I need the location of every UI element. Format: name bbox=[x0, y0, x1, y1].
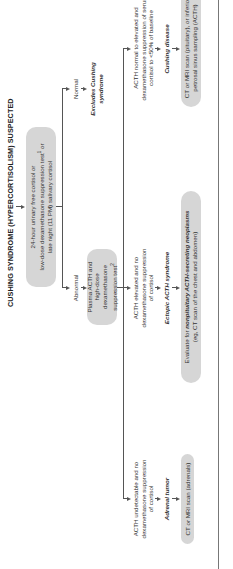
arrow-down-icon bbox=[83, 87, 87, 91]
screening-line2: low-dose dexamethasone suppression test1… bbox=[36, 143, 46, 270]
finding-acth-elevated: ACTH elevated and no dexamethasone suppr… bbox=[132, 233, 155, 343]
finding-line: dexamethasone suppression of serum bbox=[140, 0, 148, 107]
action-adrenal-scan-box: CT or MRI scan (adrenals) bbox=[181, 454, 194, 544]
flowchart-canvas: CUSHING SYNDROME (HYPERCORTISOLISM) SUSP… bbox=[0, 0, 233, 569]
screening-line2-text: low-dose dexamethasone suppression test bbox=[38, 153, 45, 270]
plasma-line1: Plasma ACTH and bbox=[86, 262, 94, 313]
finding-line: cortisol to <50% of baseline bbox=[147, 0, 155, 107]
finding-line: dexamethasone suppression bbox=[140, 233, 148, 343]
finding-line: dexamethasone suppression bbox=[140, 449, 148, 549]
plasma-line3-text: suppression test bbox=[111, 266, 118, 311]
excludes-cushing-result: Excludes Cushing syndrome bbox=[89, 49, 104, 129]
finding-acth-undetectable: ACTH undetectable and no dexamethasone s… bbox=[132, 449, 155, 549]
screening-line2-tail: or bbox=[38, 143, 45, 150]
arrow-down-icon bbox=[176, 286, 180, 290]
arrow-down-icon bbox=[176, 47, 180, 51]
finding-line: of cortisol bbox=[147, 233, 155, 343]
diagnosis-cushing-disease: Cushing disease bbox=[163, 4, 171, 94]
footnote-1: 1 bbox=[37, 151, 42, 154]
plasma-line2: high-dose dexamethasone bbox=[93, 253, 108, 321]
footnote-2: 2 bbox=[110, 263, 115, 266]
arrow-down-icon bbox=[21, 205, 25, 209]
screening-line1: 24-hour urinary free cortisol or bbox=[29, 166, 37, 249]
action-line: (eg, CT scan of the chest and abdomen) bbox=[191, 232, 199, 343]
arrow-down-icon bbox=[66, 286, 70, 290]
diagnosis-post: syndrome bbox=[163, 252, 170, 283]
diagnosis-ectopic-acth: Ectopic ACTH syndrome bbox=[163, 233, 171, 343]
action-line: petrosal sinus sampling (ACTH) bbox=[191, 4, 199, 91]
arrow-down-icon bbox=[157, 47, 161, 51]
bottom-divider bbox=[218, 0, 219, 569]
excludes-line1: Excludes Cushing bbox=[89, 49, 97, 129]
abnormal-label: Abnormal bbox=[72, 263, 80, 313]
connector bbox=[62, 88, 63, 288]
action-em: nonpituitary ACTH-secreting neoplasms bbox=[183, 211, 190, 329]
finding-line: ACTH undetectable and no bbox=[132, 449, 140, 549]
finding-line: ACTH normal to elevated and bbox=[132, 0, 140, 107]
arrow-down-icon bbox=[176, 497, 180, 501]
diagnosis-adrenal-tumor: Adrenal tumor bbox=[163, 459, 171, 539]
finding-acth-normal: ACTH normal to elevated and dexamethason… bbox=[132, 0, 155, 107]
action-line: Evaluate for nonpituitary ACTH-secreting… bbox=[183, 211, 191, 364]
finding-line: of cortisol bbox=[147, 449, 155, 549]
diagnosis-em: ACTH bbox=[163, 283, 170, 300]
action-line: CT or MRI scan (pituitary), or inferior bbox=[183, 0, 191, 98]
normal-label: Normal bbox=[72, 64, 80, 114]
plasma-acth-test-box: Plasma ACTH and high-dose dexamethasone … bbox=[87, 249, 117, 325]
arrow-down-icon bbox=[127, 497, 131, 501]
action-pre: Evaluate for bbox=[183, 329, 190, 364]
arrow-down-icon bbox=[127, 47, 131, 51]
action-pituitary-scan-box: CT or MRI scan (pituitary), or inferior … bbox=[181, 0, 201, 107]
arrow-down-icon bbox=[127, 286, 131, 290]
arrow-down-icon bbox=[157, 497, 161, 501]
finding-line: ACTH elevated and no bbox=[132, 233, 140, 343]
connector bbox=[123, 48, 124, 499]
action-evaluate-neoplasms-box: Evaluate for nonpituitary ACTH-secreting… bbox=[181, 191, 201, 383]
flowchart-title: CUSHING SYNDROME (HYPERCORTISOLISM) SUSP… bbox=[6, 98, 15, 307]
screening-line3: late night (11 PM) salivary cortisol bbox=[46, 161, 54, 253]
screening-test-box: 24-hour urinary free cortisol or low-dos… bbox=[26, 127, 56, 287]
arrow-down-icon bbox=[157, 286, 161, 290]
arrow-down-icon bbox=[66, 87, 70, 91]
diagnosis-pre: Ectopic bbox=[163, 300, 170, 324]
action-line: CT or MRI scan (adrenals) bbox=[184, 463, 192, 536]
excludes-line2: syndrome bbox=[97, 49, 105, 129]
